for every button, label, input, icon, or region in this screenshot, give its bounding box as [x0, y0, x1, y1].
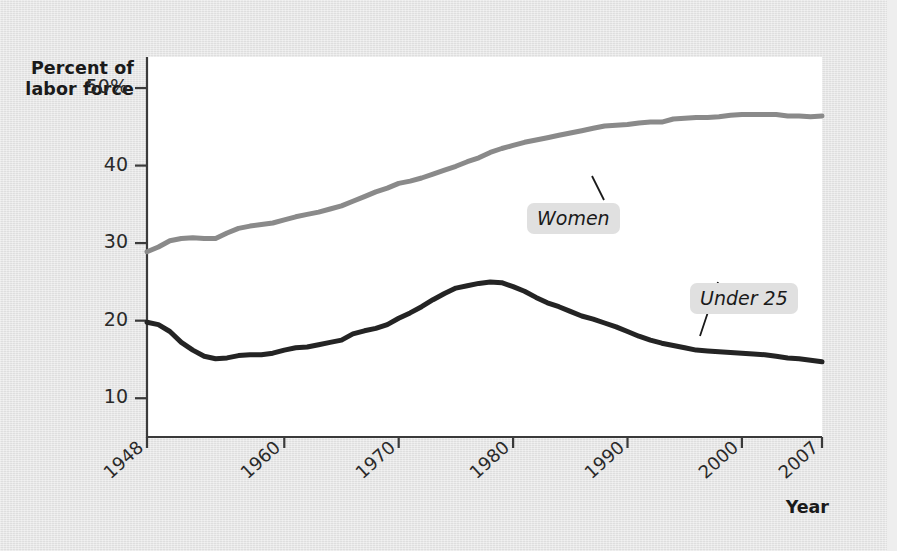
series-label-women: Women [527, 203, 620, 234]
chart-canvas [0, 0, 897, 551]
line-chart-figure: Percent of labor force 50%40302010 19481… [0, 0, 897, 551]
series-label-under-25: Under 25 [690, 283, 798, 314]
leader-line-women [592, 176, 604, 200]
series-line-women [147, 114, 822, 251]
data-series-lines [147, 114, 822, 361]
axis-tick-marks [135, 88, 822, 448]
